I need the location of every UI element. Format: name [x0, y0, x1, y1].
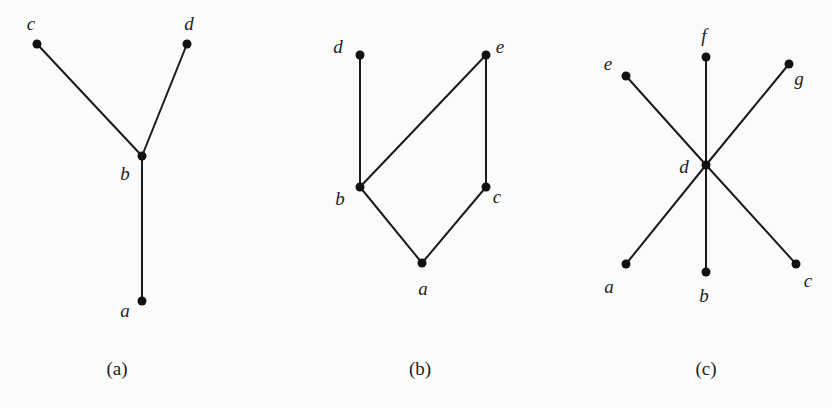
- node-d: [702, 161, 711, 170]
- node-c: [482, 183, 491, 192]
- node-label-e: e: [604, 53, 612, 74]
- node-label-a: a: [418, 278, 428, 299]
- node-e: [622, 72, 631, 81]
- node-b: [356, 183, 365, 192]
- node-a: [418, 259, 427, 268]
- node-b: [138, 152, 147, 161]
- edge-b-a: [360, 187, 422, 263]
- edge-d-c: [706, 165, 796, 264]
- node-label-e: e: [496, 36, 504, 57]
- node-label-c: c: [493, 186, 502, 207]
- edge-d-b: [142, 44, 187, 156]
- edge-c-a: [422, 187, 486, 263]
- node-label-b: b: [335, 188, 345, 209]
- node-label-a: a: [120, 300, 130, 321]
- node-b: [702, 268, 711, 277]
- node-label-b: b: [699, 285, 709, 306]
- figure-b: debca(b): [333, 36, 504, 380]
- node-f: [702, 53, 711, 62]
- node-label-d: d: [184, 13, 194, 34]
- node-a: [622, 260, 631, 269]
- node-label-a: a: [604, 276, 614, 297]
- hasse-diagrams-canvas: cdba(a) debca(b) fegdabc(c): [0, 0, 832, 408]
- node-label-f: f: [701, 25, 709, 46]
- edge-c-b: [37, 44, 142, 156]
- node-c: [792, 260, 801, 269]
- figure-caption: (b): [409, 358, 431, 380]
- node-c: [33, 40, 42, 49]
- figure-caption: (a): [106, 358, 127, 380]
- node-label-d: d: [333, 36, 343, 57]
- figure-caption: (c): [695, 358, 716, 380]
- node-d: [356, 51, 365, 60]
- node-label-d: d: [679, 156, 689, 177]
- node-e: [482, 51, 491, 60]
- node-d: [183, 40, 192, 49]
- node-label-g: g: [794, 68, 804, 89]
- edge-g-d: [706, 64, 789, 165]
- node-g: [785, 60, 794, 69]
- node-a: [138, 297, 147, 306]
- node-label-c: c: [804, 270, 813, 291]
- edge-d-a: [626, 165, 706, 264]
- edge-b-e: [360, 55, 486, 187]
- figure-a: cdba(a): [27, 13, 194, 380]
- edge-e-d: [626, 76, 706, 165]
- node-label-c: c: [27, 13, 36, 34]
- figure-c: fegdabc(c): [604, 25, 813, 380]
- node-label-b: b: [120, 163, 130, 184]
